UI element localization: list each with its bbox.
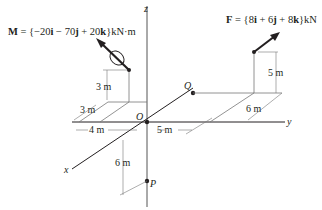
origin-point bbox=[145, 120, 149, 124]
force-vector bbox=[254, 36, 275, 52]
y-axis-label: y bbox=[286, 116, 292, 127]
dim-line bbox=[120, 181, 147, 195]
moment-vector bbox=[100, 42, 129, 70]
force-equation: F = {8i + 6j + 8k}kN bbox=[226, 14, 317, 25]
p-label: P bbox=[149, 178, 156, 189]
origin-label: O bbox=[136, 111, 143, 122]
dim-p-depth-label: 6 m bbox=[115, 157, 131, 168]
dim-moment-y-label: 4 m bbox=[89, 124, 105, 135]
diagram-canvas: z y x O Q P 3 m 3 m 4 m M = {−20i − 70j … bbox=[0, 0, 322, 210]
dim-line bbox=[186, 118, 212, 134]
dim-moment-height-label: 3 m bbox=[96, 81, 112, 92]
moment-equation: M = {−20i − 70j + 20k}kN·m bbox=[8, 26, 136, 37]
q-label: Q bbox=[184, 80, 192, 91]
force-point bbox=[252, 50, 256, 54]
statics-diagram: z y x O Q P 3 m 3 m 4 m M = {−20i − 70j … bbox=[0, 0, 322, 210]
x-axis-label: x bbox=[63, 164, 69, 175]
dim-force-height-label: 5 m bbox=[268, 67, 284, 78]
dim-force-x-label: 6 m bbox=[246, 103, 262, 114]
z-axis-label: z bbox=[143, 3, 148, 14]
moment-point bbox=[127, 68, 131, 72]
dim-force-y-label: 5 m bbox=[157, 124, 173, 135]
dim-moment-x-label: 3 m bbox=[80, 104, 96, 115]
